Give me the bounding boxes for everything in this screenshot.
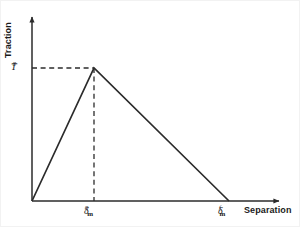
x-axis-title: Separation: [244, 205, 292, 215]
y-axis-title: Traction: [3, 22, 13, 58]
y-tick-superscript: 0: [13, 60, 17, 68]
traction-separation-figure: Traction Separation T0 δ0m δfm: [0, 0, 300, 227]
x-tick-label-initiation-separation: δ0m: [84, 204, 93, 218]
plot-canvas: [1, 1, 300, 227]
traction-separation-curve: [32, 68, 229, 201]
x-tick-failure-subscript: m: [220, 210, 226, 218]
x-tick-initiation-subscript: m: [87, 210, 93, 218]
y-tick-label-peak-traction: T0: [11, 60, 16, 72]
x-tick-label-failure-separation: δfm: [218, 204, 225, 218]
